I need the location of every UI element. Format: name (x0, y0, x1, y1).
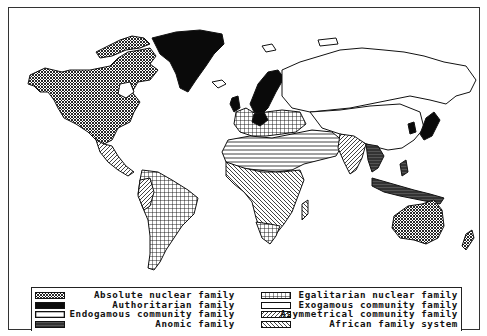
legend-item-african-family: African family system (250, 320, 458, 330)
region-north-america (28, 48, 158, 144)
region-scandinavia (250, 70, 284, 116)
absolute-nuclear-swatch-icon (35, 292, 65, 299)
region-philippines (400, 160, 408, 176)
region-mexico (96, 140, 134, 176)
region-europe (234, 108, 306, 136)
region-japan (420, 112, 440, 140)
world-map (0, 0, 487, 336)
region-north-africa-middle-east (222, 130, 344, 172)
region-southern-africa (256, 222, 280, 244)
authoritarian-swatch-icon (35, 302, 65, 309)
endogamous-community-swatch-icon (35, 311, 65, 318)
legend-label: Anomic family (155, 319, 235, 329)
region-british-isles (230, 96, 240, 112)
region-novaya-zemlya (318, 38, 338, 46)
legend-column-left: Absolute nuclear family Authoritarian fa… (35, 291, 235, 329)
region-madagascar (302, 200, 308, 220)
map-legend: Absolute nuclear family Authoritarian fa… (31, 287, 462, 331)
region-korea (408, 122, 416, 134)
anomic-swatch-icon (35, 321, 65, 328)
region-svalbard (262, 44, 276, 52)
legend-label: African family system (329, 319, 458, 329)
region-australia (392, 200, 444, 244)
legend-item-anomic: Anomic family (35, 320, 235, 330)
egalitarian-nuclear-swatch-icon (261, 292, 291, 299)
region-russia (282, 48, 476, 112)
region-iceland (212, 80, 226, 88)
legend-column-right: Egalitarian nuclear family Exogamous com… (250, 291, 458, 329)
african-family-swatch-icon (261, 321, 291, 328)
region-new-zealand (462, 230, 474, 250)
